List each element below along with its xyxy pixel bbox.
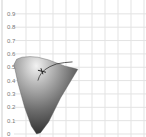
y-tick-label: 0.1 bbox=[7, 118, 16, 124]
y-tick-label: 0.8 bbox=[7, 24, 16, 30]
y-tick-label: 0 bbox=[7, 131, 11, 137]
y-tick-label: 0.4 bbox=[7, 78, 16, 84]
y-tick-label: 0.9 bbox=[7, 11, 16, 17]
y-axis-ticks: 00.10.20.30.40.50.60.70.80.9 bbox=[7, 11, 16, 137]
chromaticity-chart: 00.10.20.30.40.50.60.70.80.9 bbox=[0, 0, 146, 137]
y-tick-label: 0.7 bbox=[7, 38, 16, 44]
y-tick-label: 0.2 bbox=[7, 104, 16, 110]
y-tick-label: 0.6 bbox=[7, 51, 16, 57]
y-tick-label: 0.3 bbox=[7, 91, 16, 97]
gamut-area bbox=[14, 57, 78, 134]
